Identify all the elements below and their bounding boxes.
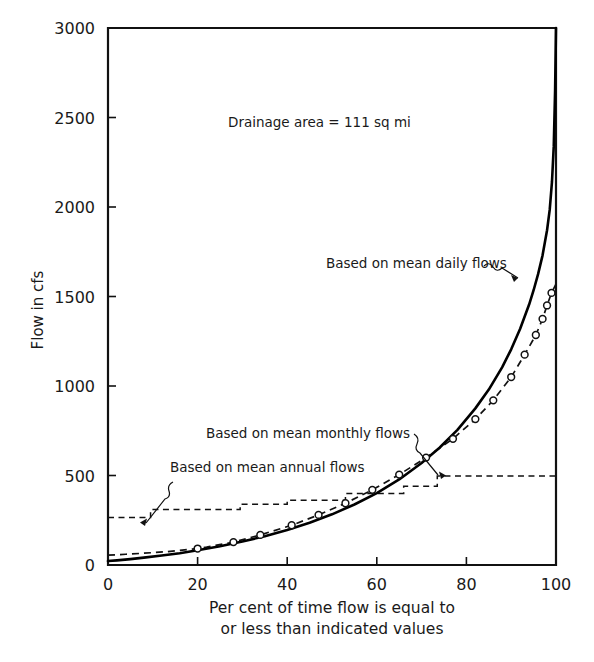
y-tick-label: 0 (85, 556, 95, 575)
monthly-data-point (315, 511, 322, 518)
monthly-data-point (508, 374, 515, 381)
monthly-data-point (490, 397, 497, 404)
monthly-data-point (230, 539, 237, 546)
x-axis-caption-line1: Per cent of time flow is equal to (209, 599, 455, 617)
x-tick-label: 100 (541, 575, 572, 594)
label-mean-daily-flows: Based on mean daily flows (326, 255, 507, 271)
flow-duration-chart-figure: 050010001500200025003000 020406080100 Dr… (0, 0, 594, 662)
monthly-data-point (521, 351, 528, 358)
monthly-data-point (194, 545, 201, 552)
monthly-data-point (396, 471, 403, 478)
y-tick-label: 2000 (54, 198, 95, 217)
y-tick-label: 2500 (54, 109, 95, 128)
monthly-data-point (548, 290, 555, 297)
monthly-data-point (472, 416, 479, 423)
y-axis-title: Flow in cfs (29, 270, 47, 349)
x-tick-label: 80 (456, 575, 476, 594)
monthly-flow-markers (194, 290, 555, 552)
curve-mean-annual-flows (108, 476, 556, 518)
plot-frame (108, 28, 556, 565)
x-axis-ticks: 020406080100 (103, 557, 571, 594)
x-tick-label: 0 (103, 575, 113, 594)
monthly-data-point (342, 500, 349, 507)
y-tick-label: 1500 (54, 288, 95, 307)
y-axis-ticks: 050010001500200025003000 (54, 19, 116, 575)
x-tick-label: 60 (367, 575, 387, 594)
label-mean-monthly-flows: Based on mean monthly flows (206, 425, 410, 441)
y-tick-label: 3000 (54, 19, 95, 38)
monthly-data-point (257, 532, 264, 539)
monthly-data-point (532, 332, 539, 339)
monthly-data-point (369, 486, 376, 493)
leader-arrow-monthly (439, 472, 446, 480)
series-group (108, 28, 556, 561)
monthly-data-point (544, 302, 551, 309)
x-tick-label: 20 (187, 575, 207, 594)
drainage-area-note: Drainage area = 111 sq mi (228, 114, 411, 130)
chart-canvas: 050010001500200025003000 020406080100 Dr… (0, 0, 594, 662)
monthly-data-point (539, 315, 546, 322)
label-mean-annual-flows: Based on mean annual flows (170, 459, 365, 475)
monthly-data-point (450, 435, 457, 442)
curve-mean-daily-flows (108, 28, 556, 561)
leader-arrow-annual (140, 519, 147, 527)
x-tick-label: 40 (277, 575, 297, 594)
monthly-data-point (288, 522, 295, 529)
y-tick-label: 1000 (54, 377, 95, 396)
y-tick-label: 500 (64, 467, 95, 486)
x-axis-caption-line2: or less than indicated values (221, 620, 444, 638)
